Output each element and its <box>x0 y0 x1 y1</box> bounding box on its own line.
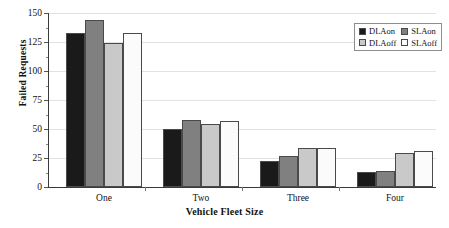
x-tick-label-two: Two <box>193 193 210 203</box>
bar-dlaoff-two <box>201 124 220 187</box>
y-tick-label: 100 <box>28 66 42 76</box>
bar-group <box>163 13 239 187</box>
bar-slaon-two <box>182 120 201 187</box>
bar-dlaoff-one <box>104 43 123 187</box>
y-tick-mark <box>44 129 48 130</box>
bar-group <box>66 13 142 187</box>
y-tick-minor <box>46 86 48 87</box>
y-tick-minor <box>46 115 48 116</box>
bar-group <box>260 13 336 187</box>
y-tick-mark <box>44 100 48 101</box>
bar-slaoff-one <box>123 33 142 187</box>
legend-item-dlaon[interactable]: DLAon <box>359 27 396 36</box>
y-tick-mark <box>44 158 48 159</box>
y-tick-mark <box>44 187 48 188</box>
bar-dlaoff-four <box>395 153 414 187</box>
x-tick-mark <box>339 187 340 191</box>
legend-swatch-icon <box>401 39 408 46</box>
y-tick-mark <box>44 42 48 43</box>
x-tick-mark <box>242 187 243 191</box>
legend-item-slaon[interactable]: SLAon <box>401 27 437 36</box>
bar-slaoff-four <box>414 151 433 187</box>
y-tick-label: 50 <box>33 124 43 134</box>
bar-chart: Failed Requests 0255075100125150 OneTwoT… <box>0 0 449 228</box>
x-tick-label-one: One <box>96 193 112 203</box>
x-tick-label-three: Three <box>287 193 309 203</box>
legend-item-slaoff[interactable]: SLAoff <box>401 39 437 48</box>
legend-swatch-icon <box>401 28 408 35</box>
bar-slaoff-three <box>317 148 336 187</box>
legend-label: DLAoff <box>369 39 396 48</box>
legend-label: SLAoff <box>411 39 437 48</box>
bar-dlaoff-three <box>298 148 317 187</box>
legend: DLAonSLAonDLAoffSLAoff <box>354 23 442 51</box>
x-axis-title: Vehicle Fleet Size <box>0 206 449 217</box>
bar-slaoff-two <box>220 121 239 187</box>
legend-item-dlaoff[interactable]: DLAoff <box>359 39 396 48</box>
y-axis-title: Failed Requests <box>18 3 28 143</box>
y-tick-label: 75 <box>33 95 43 105</box>
y-tick-label: 150 <box>28 8 42 18</box>
legend-label: DLAon <box>369 27 395 36</box>
bar-dlaon-one <box>66 33 85 187</box>
y-tick-mark <box>44 71 48 72</box>
x-tick-mark <box>145 187 146 191</box>
legend-label: SLAon <box>411 27 436 36</box>
y-tick-label: 25 <box>33 153 43 163</box>
bar-slaon-one <box>85 20 104 187</box>
bar-slaon-four <box>376 171 395 187</box>
y-tick-minor <box>46 28 48 29</box>
y-tick-minor <box>46 173 48 174</box>
legend-swatch-icon <box>359 28 366 35</box>
y-tick-label: 0 <box>37 182 42 192</box>
y-tick-minor <box>46 57 48 58</box>
y-tick-minor <box>46 144 48 145</box>
x-tick-label-four: Four <box>386 193 404 203</box>
bar-dlaon-three <box>260 161 279 187</box>
y-tick-mark <box>44 13 48 14</box>
bar-slaon-three <box>279 156 298 187</box>
legend-swatch-icon <box>359 39 366 46</box>
bar-dlaon-four <box>357 172 376 187</box>
y-tick-label: 125 <box>28 37 42 47</box>
bar-dlaon-two <box>163 129 182 187</box>
